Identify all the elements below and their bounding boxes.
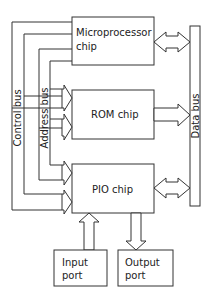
rom-input-arrow-bottom <box>62 114 72 140</box>
microprocessor-label-line1: Microprocessor <box>76 27 152 38</box>
pio-data-bidirectional-arrow <box>154 178 190 198</box>
pio-input-arrow-top <box>62 161 72 185</box>
input-port-label-line1: Input <box>62 257 88 268</box>
data-bus: Data bus <box>190 26 201 206</box>
pio-label: PIO chip <box>92 184 133 195</box>
microprocessor-label-line2: chip <box>76 41 97 52</box>
microprocessor-data-bidirectional-arrow <box>154 32 190 52</box>
block-diagram: Microprocessor chip ROM chip PIO chip Da… <box>0 0 212 300</box>
input-port-label-line2: port <box>62 270 83 281</box>
address-bus-label: Address bus <box>39 88 50 149</box>
control-bus-label: Control bus <box>12 89 23 146</box>
output-port-label-line1: Output <box>125 257 160 268</box>
pio-input-arrow-bottom <box>62 190 72 214</box>
rom-input-arrow-top <box>62 85 72 111</box>
pio-to-output-arrow <box>126 213 146 250</box>
input-port: Input port <box>54 250 107 286</box>
output-port-label-line2: port <box>125 270 146 281</box>
output-port: Output port <box>118 250 173 286</box>
microprocessor-chip: Microprocessor chip <box>72 17 154 65</box>
rom-data-arrow <box>154 104 190 126</box>
data-bus-label: Data bus <box>190 94 201 139</box>
rom-chip: ROM chip <box>72 90 154 139</box>
rom-label: ROM chip <box>91 109 139 120</box>
pio-chip: PIO chip <box>72 164 154 213</box>
input-to-pio-arrow <box>79 213 99 250</box>
